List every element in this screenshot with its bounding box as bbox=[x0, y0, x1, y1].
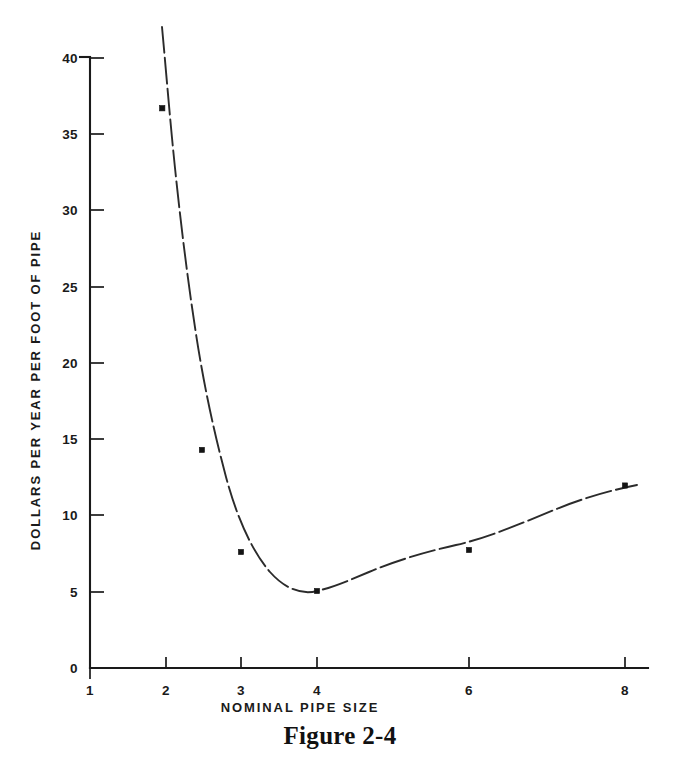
y-tick-label-10: 10 bbox=[62, 508, 78, 523]
y-tick-label-0: 0 bbox=[70, 661, 78, 676]
y-tick-label-40: 40 bbox=[62, 51, 78, 66]
figure-caption: Figure 2-4 bbox=[0, 722, 680, 750]
data-marker-size-3 bbox=[238, 549, 243, 554]
x-tick-label-8: 8 bbox=[621, 683, 629, 698]
chart-background bbox=[0, 0, 680, 774]
y-tick-label-30: 30 bbox=[62, 203, 78, 218]
x-axis-title: NOMINAL PIPE SIZE bbox=[221, 700, 379, 715]
x-tick-label-2: 2 bbox=[162, 683, 170, 698]
x-tick-label-3: 3 bbox=[237, 683, 245, 698]
data-marker-size-8 bbox=[622, 483, 627, 488]
cost-vs-pipe-size-chart: 0 5 10 15 20 25 30 35 40 1 2 3 4 6 8 bbox=[0, 0, 680, 774]
data-marker-size-2 bbox=[160, 106, 165, 111]
data-marker-size-4 bbox=[314, 588, 319, 593]
data-marker-size-6 bbox=[466, 547, 471, 552]
x-tick-label-1: 1 bbox=[86, 683, 94, 698]
y-tick-label-25: 25 bbox=[62, 280, 78, 295]
x-tick-label-6: 6 bbox=[465, 683, 473, 698]
y-tick-label-35: 35 bbox=[62, 127, 78, 142]
data-marker-size-2-5 bbox=[199, 447, 204, 452]
x-tick-label-4: 4 bbox=[313, 683, 321, 698]
figure-container: 0 5 10 15 20 25 30 35 40 1 2 3 4 6 8 bbox=[0, 0, 680, 774]
y-tick-label-15: 15 bbox=[62, 432, 78, 447]
y-tick-label-5: 5 bbox=[70, 585, 78, 600]
y-axis-title: DOLLARS PER YEAR PER FOOT OF PIPE bbox=[28, 230, 43, 550]
y-tick-label-20: 20 bbox=[62, 356, 78, 371]
